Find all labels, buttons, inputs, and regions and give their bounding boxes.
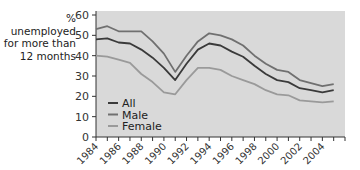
x-axis: 1984198619881990199219941996199820002002… [75, 137, 345, 166]
x-tick-label: 1994 [188, 141, 214, 167]
x-tick-label: 1990 [143, 141, 169, 167]
y-tick-label: 10 [75, 111, 89, 124]
x-tick-label: 2000 [256, 141, 282, 167]
x-tick-label: 2004 [301, 141, 327, 167]
y-tick-label: 50 [75, 29, 89, 42]
x-tick-label: 1986 [97, 141, 123, 167]
x-tick-label: 1998 [233, 141, 259, 167]
x-tick-label: 1992 [165, 141, 191, 167]
line-chart: 0102030405060 19841986198819901992199419… [0, 0, 360, 170]
y-axis: 0102030405060 [75, 9, 96, 144]
y-tick-label: 20 [75, 90, 89, 103]
y-tick-label: 0 [82, 131, 89, 144]
x-tick-label: 1984 [75, 141, 101, 167]
x-tick-label: 2002 [278, 141, 304, 167]
y-tick-label: 30 [75, 70, 89, 83]
y-tick-label: 60 [75, 9, 89, 22]
y-tick-label: 40 [75, 50, 89, 63]
x-tick-label: 1996 [210, 141, 236, 167]
legend-label-female: Female [122, 120, 162, 133]
x-tick-label: 1988 [120, 141, 146, 167]
